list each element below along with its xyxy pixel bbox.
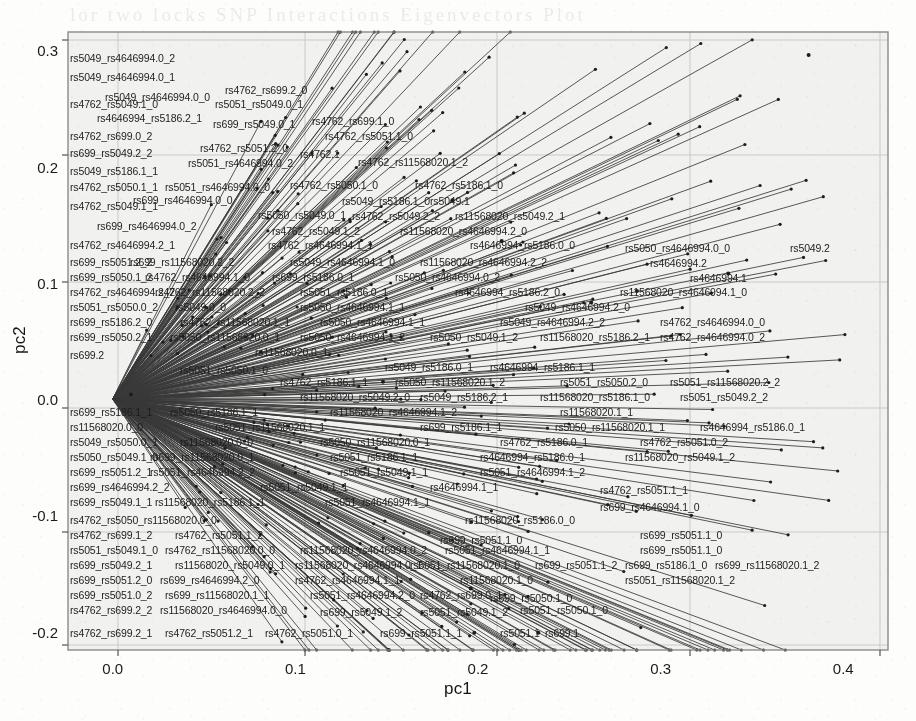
loading-point-marker [441,111,444,114]
point-label: rs11568020_rs5186.0_0 [465,515,575,526]
loading-point-marker [535,477,538,480]
loading-point-marker [265,523,268,526]
loading-point-marker [385,146,388,149]
point-label: rs5049.2 [790,243,830,254]
point-label: rs4762_rs5049.1_2 [272,226,360,237]
point-label: rs5051_rs5186.0_1 [300,287,388,298]
point-label: rs5050_rs4646994.1_2 [300,332,405,343]
loading-point-marker [787,533,790,536]
loading-point-marker [698,125,701,128]
loading-point-marker [463,406,466,409]
loading-point-marker [468,634,471,637]
loading-point-marker [468,355,471,358]
point-label: rs11568020.1_1 [560,407,633,418]
loading-point-marker [326,516,329,519]
point-label: rs699_rs5050.1_0 [490,593,572,604]
point-label: rs11568020_rs5049.1_2 [625,452,735,463]
point-label: rs5049_rs5186.0_1 [385,362,473,373]
point-label: rs699_rs5186.2_0 [70,317,152,328]
point-label: rs11568020.1_0 [460,575,533,586]
loading-point-marker [790,188,793,191]
loading-point-marker [398,69,401,72]
x-tick-label: 0.1 [285,660,306,677]
point-label: rs11568020_rs4646994.0_2 [300,545,427,556]
loading-point-marker [129,393,133,397]
point-label: rs699_rs5051.0_2 [70,590,152,601]
loading-point-marker [625,217,628,220]
loading-point-marker [546,581,549,584]
loading-point-marker [176,352,179,355]
x-tick-label: 0.2 [468,660,489,677]
loading-point-marker [516,116,519,119]
loading-point-marker [759,184,762,187]
point-label: rs11568020_rs5186.1_0 [540,392,650,403]
point-label: rs699_rs4646994.1_0 [600,502,699,513]
x-tick-label: 0.3 [650,660,671,677]
x-tick-label: 0.4 [833,660,854,677]
loading-point-marker [198,490,201,493]
loading-point-marker [498,152,501,155]
point-label: rs699_rs11568020.1_2 [715,560,819,571]
loading-point-marker [657,139,660,142]
x-tick-label: 0.0 [102,660,123,677]
point-label: rs699_rs11568020.0_1 [150,452,254,463]
loading-point-marker [472,631,476,635]
loading-point-marker [752,499,755,502]
point-label: rs4762_rs11568020.1_2 [358,157,468,168]
loading-point-marker [457,86,460,89]
point-label: rs699_rs5050.2_1 [70,332,152,343]
loading-point-marker [769,480,772,483]
point-label: rs4646994_rs5186.0_0 [470,240,575,251]
point-label: rs11568020.0_1 [255,347,328,358]
x-axis-title: pc1 [0,679,916,699]
point-label: rs5051_rs4646994.2_0 [310,590,415,601]
point-label: rs4762_rs5050.1_1 [70,182,158,193]
loading-point-marker [307,470,310,473]
point-label: rs5051_rs5049.1_2 [420,607,508,618]
loading-point-marker [287,441,290,444]
point-label: rs4762_rs699.1_0 [312,116,394,127]
pca-biplot-figure: 0.00.10.20.30.4 -0.2-0.10.00.10.20.3 rs5… [0,0,916,721]
loading-point-marker [328,472,331,475]
loading-point-marker [362,630,365,633]
point-label: rs4762_rs4646994.1_1 [295,575,400,586]
point-label: rs699.1 [545,628,579,639]
loading-point-marker [474,433,477,436]
loading-point-marker [812,440,815,443]
loading-point-marker [653,393,656,396]
point-label: rs5051_rs5049.1_0 [70,545,158,556]
loading-point-marker [490,509,493,512]
loading-point-marker [405,50,408,53]
loading-point-marker [686,419,689,422]
point-label: rs5051_rs4646994.1_2 [480,467,585,478]
loading-point-marker [280,640,283,643]
point-label: rs11568020_rs4646994.1_0 [620,287,747,298]
loading-point-marker [411,485,414,488]
point-label: rs4762_rs699.1_2 [70,530,152,541]
point-label: rs5051_rs11568020.2_2 [670,377,780,388]
loading-point-marker [261,271,264,274]
point-label: rs4762_rs5050.1_0 [290,180,378,191]
point-label: rs11568020_rs5049.0_1 [175,560,285,571]
point-label: rs699_rs5049.2_2 [70,148,152,159]
point-label: rs4762_rs5186.1_0 [415,180,503,191]
loading-point-marker [262,304,265,307]
y-axis-title: pc2 [10,300,30,380]
loading-point-marker [149,354,152,357]
loading-point-marker [838,358,841,361]
point-label: rs4762_rs11568020.1_1 [180,317,290,328]
loading-point-marker [523,112,526,115]
loading-point-marker [347,371,350,374]
point-label: rs699_rs5186.0_1 [272,272,354,283]
loading-point-marker [807,53,811,57]
point-label: rs4762_rs4646994.2_1 [70,240,175,251]
loading-point-marker [836,469,839,472]
point-label: rs5050_rs11568020.0_1 [170,332,280,343]
loading-point-marker [304,615,307,618]
loading-point-marker [389,281,392,284]
loading-point-marker [462,472,465,475]
loading-point-marker [263,393,266,396]
point-label: rs4762_rs699.2_2 [70,605,152,616]
y-tick-label: -0.2 [10,623,58,640]
loading-point-marker [315,410,318,413]
